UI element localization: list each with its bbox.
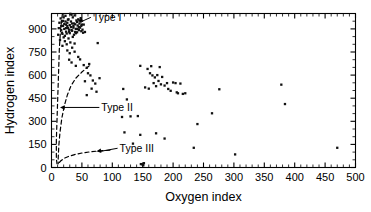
data-point (64, 20, 66, 22)
x-tick-label: 0 (48, 171, 54, 183)
data-point (61, 32, 63, 34)
data-point (58, 27, 60, 29)
data-point (159, 66, 161, 68)
y-tick-label: 300 (28, 115, 46, 127)
data-point (69, 52, 71, 54)
data-point (92, 79, 94, 81)
data-point (280, 84, 282, 86)
x-tick-label: 100 (103, 171, 121, 183)
data-point (172, 81, 174, 83)
data-point (75, 32, 77, 34)
data-point (184, 92, 186, 94)
x-tick-label: 350 (255, 171, 273, 183)
data-point (64, 40, 66, 42)
data-point (70, 61, 72, 63)
y-tick-label: 750 (28, 46, 46, 58)
data-point (182, 93, 184, 95)
x-tick-label: 250 (194, 171, 212, 183)
data-point (89, 74, 91, 76)
annotation-arrow (82, 17, 91, 21)
data-point (144, 86, 146, 88)
data-point (68, 59, 70, 61)
data-point (73, 42, 75, 44)
data-point (70, 14, 72, 16)
data-point (72, 16, 74, 18)
annotation-label: Type I (93, 11, 122, 23)
data-point (76, 21, 78, 23)
data-point (143, 162, 145, 164)
data-point (64, 15, 66, 17)
data-point (336, 147, 338, 149)
data-point (154, 76, 156, 78)
annotation-arrowhead (96, 148, 101, 153)
data-point (83, 64, 85, 66)
data-point (179, 82, 181, 84)
data-point (160, 83, 162, 85)
data-point (67, 19, 69, 21)
data-point (63, 36, 65, 38)
data-point (81, 29, 83, 31)
data-point (60, 25, 62, 27)
x-axis-tick-labels: 050100150200250300350400450500 (48, 171, 364, 183)
data-point (193, 147, 195, 149)
data-point (148, 88, 150, 90)
data-point (83, 23, 85, 25)
y-tick-label: 450 (28, 92, 46, 104)
data-point (155, 85, 157, 87)
data-point (123, 131, 125, 133)
data-point (88, 63, 90, 65)
maturation-path (58, 150, 110, 164)
x-tick-label: 200 (164, 171, 182, 183)
data-point (142, 164, 144, 166)
chart-figure: 050100150200250300350400450500 015030045… (0, 0, 371, 212)
data-point (163, 137, 165, 139)
data-point (157, 80, 159, 82)
data-point (90, 88, 92, 90)
data-point (97, 42, 99, 44)
data-point (98, 77, 100, 79)
data-point (66, 49, 68, 51)
x-tick-label: 450 (316, 171, 334, 183)
data-point (73, 14, 75, 16)
data-point (68, 29, 70, 31)
data-point (72, 25, 74, 27)
data-point (82, 32, 84, 34)
x-tick-label: 400 (286, 171, 304, 183)
y-axis-tick-labels: 0150300450600750900 (28, 23, 46, 174)
data-point (75, 65, 77, 67)
annotation-arrowhead (60, 105, 65, 110)
data-point (71, 47, 73, 49)
data-point (139, 134, 141, 136)
data-point (155, 132, 157, 134)
data-point (149, 72, 151, 74)
data-point (63, 23, 65, 25)
data-point (69, 41, 71, 43)
data-point (73, 51, 75, 53)
data-point (167, 88, 169, 90)
x-axis-title: Oxygen index (165, 190, 242, 204)
data-point (156, 74, 158, 76)
data-point (218, 88, 220, 90)
annotation-label: Type III (120, 142, 154, 154)
x-tick-label: 50 (76, 171, 88, 183)
data-point (150, 65, 152, 67)
data-point (121, 116, 123, 118)
x-axis-ticks (52, 14, 356, 168)
data-point (166, 82, 168, 84)
scatter-plot-svg: 050100150200250300350400450500 015030045… (0, 0, 371, 212)
data-point (86, 94, 88, 96)
data-point (58, 22, 60, 24)
data-point (70, 20, 72, 22)
plot-frame (52, 14, 356, 168)
data-point (234, 153, 236, 155)
data-point (176, 91, 178, 93)
data-point (84, 80, 86, 82)
x-tick-label: 300 (225, 171, 243, 183)
data-point (65, 27, 67, 29)
data-point (62, 20, 64, 22)
data-point (87, 72, 89, 74)
data-point (71, 30, 73, 32)
data-point (80, 25, 82, 27)
data-point (211, 112, 213, 114)
y-axis-ticks (52, 14, 356, 168)
